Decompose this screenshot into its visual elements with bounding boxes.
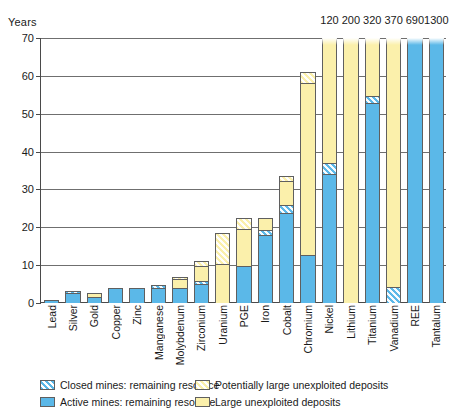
bar-group[interactable] bbox=[151, 38, 166, 303]
bar-segment-potential bbox=[194, 261, 209, 266]
x-label-iron: Iron bbox=[259, 305, 271, 323]
bar-group[interactable] bbox=[407, 38, 422, 303]
y-tick-label: 70 bbox=[0, 32, 34, 44]
bar-group[interactable] bbox=[129, 38, 144, 303]
bar-lead[interactable] bbox=[44, 300, 59, 303]
x-label-cobalt: Cobalt bbox=[281, 305, 293, 335]
bar-iron[interactable] bbox=[258, 218, 273, 303]
legend-item-closed[interactable]: Closed mines: remaining resource bbox=[40, 377, 219, 392]
bar-segment-large bbox=[343, 38, 358, 303]
bar-pge[interactable] bbox=[236, 218, 251, 303]
x-label-zirconium: Zirconium bbox=[195, 305, 207, 351]
bar-segment-active bbox=[44, 300, 59, 303]
bar-nickel[interactable] bbox=[322, 38, 337, 303]
legend-label: Potentially large unexploited deposits bbox=[215, 379, 388, 391]
bar-segment-active bbox=[322, 174, 337, 303]
bar-group[interactable] bbox=[108, 38, 123, 303]
bar-segment-active bbox=[279, 213, 294, 303]
legend-item-large[interactable]: Large unexploited deposits bbox=[195, 394, 388, 409]
y-axis-title: Years bbox=[8, 16, 37, 28]
bar-molybdenum[interactable] bbox=[172, 277, 187, 304]
bar-copper[interactable] bbox=[108, 288, 123, 303]
y-tick-label: 20 bbox=[0, 221, 34, 233]
y-tick-mark bbox=[36, 189, 40, 190]
legend-item-active[interactable]: Active mines: remaining resource bbox=[40, 394, 219, 409]
bar-cobalt[interactable] bbox=[279, 176, 294, 303]
y-tick-mark bbox=[36, 227, 40, 228]
bar-group[interactable] bbox=[215, 38, 230, 303]
bar-group[interactable] bbox=[279, 38, 294, 303]
bar-group[interactable] bbox=[258, 38, 273, 303]
legend-swatch-potential-icon bbox=[195, 380, 210, 390]
y-tick-mark bbox=[36, 76, 40, 77]
x-label-pge: PGE bbox=[238, 305, 250, 327]
bar-segment-active bbox=[151, 288, 166, 303]
y-tick-label: 30 bbox=[0, 183, 34, 195]
bar-segment-large bbox=[87, 293, 102, 297]
legend-item-potential[interactable]: Potentially large unexploited deposits bbox=[195, 377, 388, 392]
bar-zinc[interactable] bbox=[129, 288, 144, 303]
y-tick-label: 60 bbox=[0, 70, 34, 82]
bar-uranium[interactable] bbox=[215, 233, 230, 303]
legend-swatch-active-icon bbox=[40, 397, 55, 407]
legend-column-2: Potentially large unexploited depositsLa… bbox=[195, 377, 388, 411]
bar-segment-large bbox=[365, 38, 380, 96]
bar-titanium[interactable] bbox=[365, 38, 380, 303]
bar-tantalum[interactable] bbox=[429, 38, 444, 303]
x-label-lithium: Lithium bbox=[345, 305, 357, 339]
bar-group[interactable] bbox=[343, 38, 358, 303]
y-tick-label: 0 bbox=[0, 297, 34, 309]
bar-segment-active bbox=[258, 235, 273, 303]
bar-group[interactable] bbox=[65, 38, 80, 303]
bar-group[interactable] bbox=[194, 38, 209, 303]
y-tick-mark bbox=[36, 303, 40, 304]
x-label-uranium: Uranium bbox=[217, 305, 229, 345]
bar-group[interactable] bbox=[429, 38, 444, 303]
y-tick-mark bbox=[36, 114, 40, 115]
bar-group[interactable] bbox=[236, 38, 251, 303]
bar-segment-closed bbox=[258, 230, 273, 235]
bar-group[interactable] bbox=[322, 38, 337, 303]
bar-ree[interactable] bbox=[407, 38, 422, 303]
bar-segment-closed bbox=[151, 285, 166, 288]
bar-segment-potential bbox=[236, 218, 251, 229]
bar-segment-active bbox=[365, 103, 380, 303]
y-tick-label: 40 bbox=[0, 146, 34, 158]
bar-segment-active bbox=[300, 255, 315, 303]
bar-segment-active bbox=[129, 288, 144, 303]
bar-group[interactable] bbox=[87, 38, 102, 303]
bar-segment-large bbox=[215, 264, 230, 303]
bar-segment-closed bbox=[322, 163, 337, 174]
bar-group[interactable] bbox=[365, 38, 380, 303]
resource-lifetime-bar-chart: Years 010203040506070 120200320370690130… bbox=[0, 0, 452, 419]
bar-segment-closed bbox=[365, 96, 380, 104]
y-tick-mark bbox=[36, 265, 40, 266]
bar-zirconium[interactable] bbox=[194, 261, 209, 303]
bar-chromium[interactable] bbox=[300, 72, 315, 303]
bar-segment-active bbox=[87, 297, 102, 303]
x-label-vanadium: Vanadium bbox=[388, 305, 400, 352]
bar-segment-potential bbox=[279, 176, 294, 181]
top-value-labels: 1202003203706901300 bbox=[41, 14, 446, 30]
top-value-label-tantalum: 1300 bbox=[423, 14, 449, 26]
bar-silver[interactable] bbox=[65, 291, 80, 303]
bar-segment-large bbox=[279, 181, 294, 205]
bar-segment-active bbox=[407, 38, 422, 303]
y-tick-mark bbox=[36, 152, 40, 153]
bar-lithium[interactable] bbox=[343, 38, 358, 303]
bar-group[interactable] bbox=[44, 38, 59, 303]
plot-area bbox=[40, 38, 446, 303]
y-tick-label: 10 bbox=[0, 259, 34, 271]
bar-manganese[interactable] bbox=[151, 285, 166, 303]
bar-group[interactable] bbox=[172, 38, 187, 303]
bar-group[interactable] bbox=[300, 38, 315, 303]
legend-label: Large unexploited deposits bbox=[215, 396, 341, 408]
bar-group[interactable] bbox=[386, 38, 401, 303]
bar-gold[interactable] bbox=[87, 293, 102, 303]
bar-vanadium[interactable] bbox=[386, 38, 401, 303]
x-label-molybdenum: Molybdenum bbox=[174, 305, 186, 365]
x-label-tantalum: Tantalum bbox=[430, 305, 442, 348]
legend-column-1: Closed mines: remaining resourceActive m… bbox=[40, 377, 219, 411]
x-label-lead: Lead bbox=[46, 305, 58, 328]
x-axis-labels: LeadSilverGoldCopperZincManganeseMolybde… bbox=[41, 305, 446, 367]
